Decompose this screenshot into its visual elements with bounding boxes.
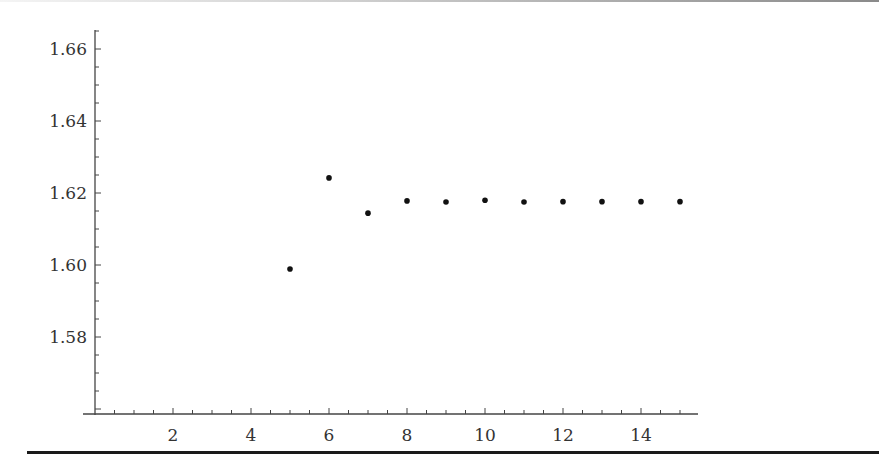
y-tick-label: 1.62 [49,183,87,203]
y-tick-label: 1.64 [49,111,87,131]
data-point [482,197,488,203]
x-tick-label: 10 [474,425,496,445]
y-tick-label: 1.58 [49,327,87,347]
x-tick-label: 12 [552,425,574,445]
data-point [521,199,527,205]
x-tick-label: 14 [630,425,652,445]
data-point [443,199,449,205]
y-axis-ticks: 1.581.601.621.641.66 [49,31,101,409]
y-tick-label: 1.66 [49,39,87,59]
data-point [404,198,410,204]
data-point [287,266,293,272]
x-tick-label: 4 [246,425,257,445]
scatter-chart: 1.581.601.621.641.66 2468101214 [0,0,879,474]
x-tick-label: 8 [402,425,413,445]
data-point [677,199,683,205]
data-point [326,175,332,181]
bottom-rule [27,451,879,454]
x-tick-label: 6 [324,425,335,445]
data-point [638,199,644,205]
axes [83,30,698,415]
data-point [599,199,605,205]
data-point [560,199,566,205]
data-points [287,175,683,272]
x-tick-label: 2 [168,425,179,445]
y-tick-label: 1.60 [49,255,87,275]
data-point [365,210,371,216]
